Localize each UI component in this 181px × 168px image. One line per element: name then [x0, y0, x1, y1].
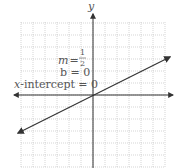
- y-axis-label: y: [87, 0, 95, 13]
- coordinate-graph: y m= 1 2 b = 0 x-intercept = 0: [0, 0, 181, 168]
- x-intercept-label: x-intercept = 0: [14, 78, 98, 91]
- slope-numerator: 1: [80, 48, 85, 57]
